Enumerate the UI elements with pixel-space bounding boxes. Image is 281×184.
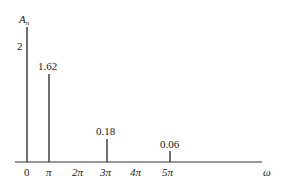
x-tick-0: 0 [24,166,30,178]
x-tick-5pi: 5π [162,166,174,178]
value-label-pi: 1.62 [38,60,57,72]
value-label-0: 2 [17,40,23,52]
y-axis-title: An [18,13,30,27]
x-tick-3pi: 3π [99,166,112,178]
x-tick-2pi: 2π [72,166,84,178]
value-label-5pi: 0.06 [160,138,180,150]
x-tick-4pi: 4π [130,166,142,178]
x-tick-pi: π [46,166,52,178]
x-axis-title: ω [263,166,271,178]
amplitude-spectrum-chart: An 2 1.62 0.18 0.06 0 π 2π 3π 4π 5π ω [0,0,281,184]
value-label-3pi: 0.18 [96,125,116,137]
